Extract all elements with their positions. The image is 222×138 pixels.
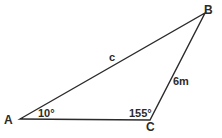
vertex-label-c: C [146, 120, 155, 134]
side-label-c: c [109, 51, 115, 63]
angle-label-c: 155° [129, 107, 152, 119]
vertex-label-a: A [4, 113, 13, 127]
side-label-bc: 6m [173, 75, 189, 87]
triangle-abc [20, 13, 205, 120]
vertex-label-b: B [204, 3, 213, 17]
angle-label-a: 10° [38, 107, 55, 119]
triangle-diagram: A B C c 6m 10° 155° [0, 0, 222, 138]
